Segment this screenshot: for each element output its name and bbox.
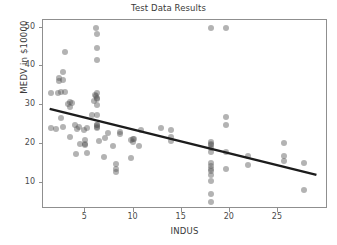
chart-title: Test Data Results xyxy=(0,3,337,13)
y-axis-label: MEDV in $10000 xyxy=(19,0,29,117)
y-tick-label: 20 xyxy=(11,139,35,147)
y-tick-mark xyxy=(39,27,43,28)
y-tick-mark xyxy=(39,182,43,183)
x-tick-mark xyxy=(133,208,134,212)
x-tick-mark xyxy=(229,208,230,212)
y-tick-mark xyxy=(39,65,43,66)
x-tick-label: 25 xyxy=(262,213,292,221)
x-tick-label: 20 xyxy=(214,213,244,221)
x-tick-label: 15 xyxy=(166,213,196,221)
y-tick-mark xyxy=(39,143,43,144)
regression-line xyxy=(43,20,326,207)
plot-area xyxy=(42,19,327,208)
x-axis-label: INDUS xyxy=(42,226,327,236)
chart-figure: Test Data Results 1020304050 510152025 I… xyxy=(0,0,337,245)
x-tick-label: 10 xyxy=(118,213,148,221)
x-tick-mark xyxy=(84,208,85,212)
x-tick-mark xyxy=(181,208,182,212)
y-tick-mark xyxy=(39,104,43,105)
x-tick-label: 5 xyxy=(69,213,99,221)
y-tick-label: 10 xyxy=(11,178,35,186)
x-tick-mark xyxy=(277,208,278,212)
